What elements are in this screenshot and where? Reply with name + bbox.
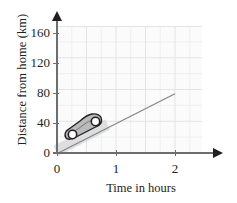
x-tick-2 [175,150,176,156]
x-axis-title: Time in hours [57,181,225,196]
y-axis-title: Distance from home (km) [15,0,30,160]
y-tick-label-80: 80 [8,85,50,101]
y-tick-label-160: 160 [8,25,50,41]
y-tick-40 [53,123,59,124]
x-tick-1 [116,150,117,156]
y-tick-label-40: 40 [8,115,50,131]
distance-time-chart: Distance from home (km) [0,0,237,203]
y-tick-label-120: 120 [8,55,50,71]
y-axis-arrow-icon [52,11,62,21]
x-tick-0 [57,150,58,156]
x-tick-label-2: 2 [163,161,187,177]
y-tick-80 [53,93,59,94]
y-axis-line [56,20,58,153]
y-tick-160 [53,33,59,34]
x-tick-label-0: 0 [45,161,69,177]
car-icon [60,104,106,146]
y-tick-label-0: 0 [8,145,50,161]
y-tick-120 [53,63,59,64]
x-axis-arrow-icon [213,148,223,158]
x-axis-line [57,152,215,154]
x-tick-label-1: 1 [104,161,128,177]
